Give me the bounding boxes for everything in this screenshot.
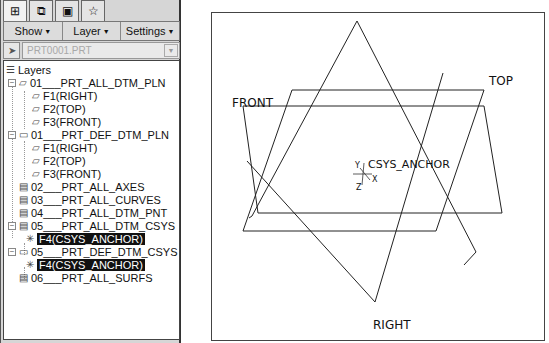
tree-item-layer[interactable]: ▤ 03___PRT_ALL_CURVES	[19, 194, 161, 206]
settings-menu-label: Settings	[126, 25, 166, 37]
tree-item-feature[interactable]: ✳ F4(CSYS_ANCHOR)	[26, 233, 145, 245]
tree-item-feature[interactable]: ▱ F3(FRONT)	[32, 116, 101, 128]
tree-item-layer[interactable]: ▤ 02___PRT_ALL_AXES	[19, 181, 145, 193]
top-plane-label[interactable]: TOP	[489, 74, 513, 88]
layer-menu[interactable]: Layer▼	[63, 22, 122, 40]
collapse-icon[interactable]: −	[8, 222, 16, 230]
tree-item-label: 02___PRT_ALL_AXES	[31, 181, 145, 193]
select-model-button[interactable]: ➤	[3, 42, 20, 59]
layer-icon: ▤	[19, 272, 28, 284]
tree-root-label: Layers	[18, 64, 51, 76]
right-datum-plane	[249, 21, 357, 218]
collapse-icon[interactable]: −	[8, 248, 16, 256]
layer-icon: ▤	[19, 220, 28, 232]
layer-icon: ▤	[19, 181, 28, 193]
layer-menu-label: Layer	[73, 25, 101, 37]
coordinate-system-icon: ✳	[26, 259, 34, 271]
tree-item-label: 06___PRT_ALL_SURFS	[31, 272, 152, 284]
model-selector-row: ➤ PRT0001.PRT ▼	[3, 42, 180, 59]
tree-connector	[24, 141, 25, 179]
chevron-down-icon: ▼	[103, 28, 110, 35]
tree-item-label: F3(FRONT)	[43, 116, 101, 128]
chevron-down-icon: ▼	[164, 44, 178, 57]
tree-item-feature[interactable]: ▱ F3(FRONT)	[32, 168, 101, 180]
datum-plane-icon: ▱	[32, 142, 40, 154]
tab-layers[interactable]: ⧉	[29, 0, 53, 21]
collapse-icon[interactable]: −	[8, 131, 16, 139]
folder-icon: ▣	[62, 4, 73, 18]
tree-item-label: 05___PRT_ALL_DTM_CSYS	[31, 220, 175, 232]
right-datum-plane	[357, 21, 476, 265]
show-menu-label: Show	[15, 25, 43, 37]
active-model-dropdown[interactable]: PRT0001.PRT ▼	[22, 42, 180, 59]
tree-connector	[12, 83, 13, 238]
active-model-value: PRT0001.PRT	[27, 45, 92, 56]
front-plane-label[interactable]: FRONT	[232, 96, 273, 110]
tree-item-feature[interactable]: ▱ F1(RIGHT)	[32, 90, 97, 102]
tree-item-label: 01___PRT_DEF_DTM_PLN	[31, 129, 169, 141]
layers-icon: ☰	[6, 64, 15, 76]
right-datum-plane	[247, 73, 443, 302]
tab-favorites[interactable]: ☆	[81, 0, 105, 21]
panel-tabs: ⊞ ⧉ ▣ ☆	[3, 0, 107, 21]
chevron-down-icon: ▼	[168, 28, 175, 35]
tab-model-tree[interactable]: ⊞	[3, 0, 27, 21]
tree-item-layer[interactable]: ▤ 04___PRT_ALL_DTM_PNT	[19, 207, 167, 219]
chevron-down-icon: ▼	[44, 28, 51, 35]
tree-item-feature[interactable]: ▱ F1(RIGHT)	[32, 142, 97, 154]
layers-icon: ⧉	[37, 4, 46, 18]
tree-item-layer[interactable]: − ▭ 05___PRT_DEF_DTM_CSYS	[8, 246, 178, 258]
tree-item-label: F2(TOP)	[43, 103, 86, 115]
tree-item-label: 05___PRT_DEF_DTM_CSYS	[31, 246, 178, 258]
datum-plane-icon: ▱	[32, 103, 40, 115]
csys-x-axis-label: X	[372, 175, 377, 184]
tree-item-label-selected: F4(CSYS_ANCHOR)	[37, 259, 145, 271]
pointer-arrow-icon: ➤	[8, 45, 16, 56]
layer-icon: ▤	[19, 194, 28, 206]
csys-y-axis-label: Y	[355, 161, 360, 170]
tree-connector	[24, 91, 25, 129]
show-menu[interactable]: Show▼	[4, 22, 63, 40]
tree-item-label: F3(FRONT)	[43, 168, 101, 180]
model-tree-icon: ⊞	[10, 4, 20, 18]
datum-planes-drawing	[212, 13, 546, 342]
tree-item-label: F1(RIGHT)	[43, 90, 97, 102]
tree-item-layer[interactable]: ▤ 06___PRT_ALL_SURFS	[19, 272, 152, 284]
tree-item-label: F1(RIGHT)	[43, 142, 97, 154]
tree-item-label: 01___PRT_ALL_DTM_PLN	[30, 77, 166, 89]
layer-icon: ▭	[19, 129, 28, 141]
datum-plane-icon: ▱	[32, 155, 40, 167]
tree-item-label: 03___PRT_ALL_CURVES	[31, 194, 161, 206]
tree-item-layer[interactable]: − ▱ 01___PRT_ALL_DTM_PLN	[8, 77, 166, 89]
csys-anchor-label[interactable]: CSYS_ANCHOR	[368, 158, 450, 171]
tree-root-layers[interactable]: ☰ Layers	[6, 64, 51, 76]
tree-item-layer[interactable]: − ▭ 01___PRT_DEF_DTM_PLN	[8, 129, 169, 141]
tree-item-layer[interactable]: − ▤ 05___PRT_ALL_DTM_CSYS	[8, 220, 175, 232]
layer-icon: ▤	[19, 207, 28, 219]
tree-item-feature[interactable]: ▱ F2(TOP)	[32, 103, 86, 115]
graphics-viewport[interactable]: FRONT TOP RIGHT CSYS_ANCHOR Y X Z	[211, 12, 545, 341]
model-tree-panel: ⊞ ⧉ ▣ ☆ Show▼ Layer▼ Settings▼ ➤ PRT0001…	[0, 0, 181, 343]
tree-item-label: F2(TOP)	[43, 155, 86, 167]
datum-plane-icon: ▱	[32, 116, 40, 128]
settings-menu[interactable]: Settings▼	[121, 22, 179, 40]
tab-folder-browser[interactable]: ▣	[55, 0, 79, 21]
collapse-icon[interactable]: −	[8, 79, 16, 87]
tree-item-feature[interactable]: ▱ F2(TOP)	[32, 155, 86, 167]
datum-plane-icon: ▱	[32, 90, 40, 102]
datum-plane-icon: ▱	[32, 168, 40, 180]
layer-menubar: Show▼ Layer▼ Settings▼	[3, 21, 180, 41]
tree-item-label-selected: F4(CSYS_ANCHOR)	[37, 233, 145, 245]
layer-tree: ☰ Layers − ▱ 01___PRT_ALL_DTM_PLN ▱ F1(R…	[3, 60, 180, 340]
tree-item-label: 04___PRT_ALL_DTM_PNT	[31, 207, 167, 219]
layer-icon: ▭	[19, 246, 28, 258]
layer-icon: ▱	[19, 77, 27, 89]
csys-z-axis-label: Z	[356, 183, 361, 192]
tree-item-feature[interactable]: ✳ F4(CSYS_ANCHOR)	[26, 259, 145, 271]
coordinate-system-icon: ✳	[26, 233, 34, 245]
right-plane-label[interactable]: RIGHT	[373, 318, 411, 332]
favorites-icon: ☆	[88, 4, 99, 18]
